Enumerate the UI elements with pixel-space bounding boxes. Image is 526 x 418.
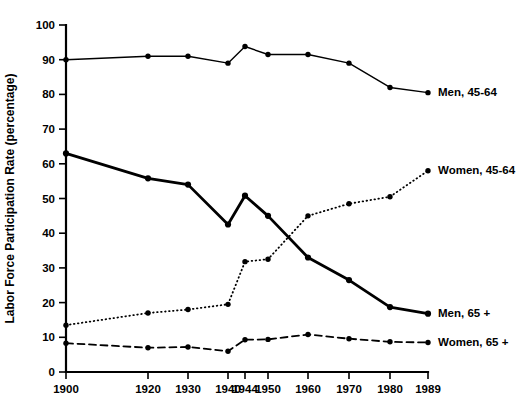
data-point (305, 332, 310, 337)
data-point (225, 60, 230, 65)
data-point (242, 44, 247, 49)
data-point (63, 322, 68, 327)
data-point (185, 307, 190, 312)
y-tick-label: 100 (36, 19, 55, 31)
y-tick-label: 70 (42, 123, 55, 135)
series-label: Women, 65 + (438, 336, 509, 348)
series-line-2 (66, 153, 428, 313)
y-axis-title: Labor Force Participation Rate (percenta… (3, 73, 17, 323)
data-point (387, 85, 392, 90)
x-tick-label: 1980 (377, 383, 403, 395)
data-point (305, 213, 310, 218)
y-axis: 0102030405060708090100 (36, 19, 66, 378)
x-tick-label: 1920 (135, 383, 161, 395)
data-point (145, 345, 150, 350)
data-point (425, 311, 431, 317)
series-line-3 (66, 335, 428, 352)
y-tick-label: 90 (42, 54, 55, 66)
data-point (346, 60, 351, 65)
x-tick-label: 1930 (175, 383, 201, 395)
y-tick-label: 30 (42, 262, 55, 274)
data-point (305, 254, 311, 260)
data-point (242, 337, 247, 342)
series-line-0 (66, 47, 428, 93)
data-point (265, 52, 270, 57)
chart-container: 0102030405060708090100 19001920193019401… (0, 0, 526, 418)
x-tick-label: 1989 (415, 383, 441, 395)
data-point (305, 52, 310, 57)
data-point (185, 54, 190, 59)
data-point (387, 304, 393, 310)
data-point (265, 337, 270, 342)
data-point (387, 194, 392, 199)
data-point (242, 259, 247, 264)
data-point (425, 90, 430, 95)
y-tick-label: 60 (42, 158, 55, 170)
x-axis: 1900192019301940194419501960197019801989 (53, 372, 441, 395)
series-label: Men, 45-64 (438, 86, 497, 98)
series-labels: Men, 45-64Women, 45-64Men, 65 +Women, 65… (438, 86, 516, 348)
data-point (225, 348, 230, 353)
data-point (265, 213, 271, 219)
data-point (145, 310, 150, 315)
data-point (63, 340, 68, 345)
data-point (225, 302, 230, 307)
data-point (63, 150, 69, 156)
y-tick-label: 20 (42, 297, 55, 309)
data-point (145, 54, 150, 59)
y-tick-label: 0 (49, 366, 55, 378)
series-label: Women, 45-64 (438, 164, 516, 176)
data-point (185, 344, 190, 349)
x-tick-label: 1900 (53, 383, 79, 395)
data-point (185, 182, 191, 188)
y-tick-label: 50 (42, 193, 55, 205)
data-point (346, 201, 351, 206)
data-point (265, 257, 270, 262)
data-point (387, 339, 392, 344)
y-tick-label: 80 (42, 88, 55, 100)
x-tick-label: 1970 (336, 383, 362, 395)
data-point (225, 221, 231, 227)
series-label: Men, 65 + (438, 307, 490, 319)
data-point (425, 340, 430, 345)
x-tick-label: 1960 (295, 383, 321, 395)
data-point (346, 336, 351, 341)
data-point (242, 193, 248, 199)
data-point (346, 277, 352, 283)
y-tick-label: 40 (42, 227, 55, 239)
line-chart: 0102030405060708090100 19001920193019401… (0, 0, 526, 418)
series-layer (63, 44, 431, 354)
x-tick-label: 1950 (255, 383, 281, 395)
data-point (63, 57, 68, 62)
data-point (425, 168, 430, 173)
data-point (145, 175, 151, 181)
y-tick-label: 10 (42, 331, 55, 343)
